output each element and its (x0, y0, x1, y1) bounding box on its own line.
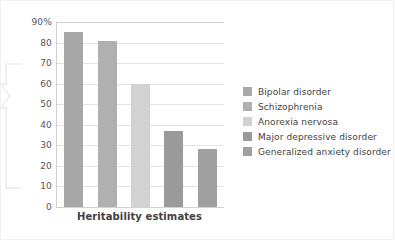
legend-item: Generalized anxiety disorder (243, 144, 393, 159)
x-axis-label: Heritability estimates (56, 211, 223, 222)
plot-area (56, 22, 224, 208)
y-axis-tick-label: 0 (6, 203, 52, 212)
y-axis-tick-labels: 90%80706050403020100 (0, 0, 52, 241)
legend-item-label: Major depressive disorder (258, 132, 377, 142)
y-axis-tick-label: 30 (6, 141, 52, 150)
legend-item: Bipolar disorder (243, 84, 393, 99)
legend-item-label: Generalized anxiety disorder (258, 147, 391, 157)
bar (64, 32, 83, 207)
legend-item: Schizophrenia (243, 99, 393, 114)
bar (164, 131, 183, 207)
legend-item-label: Anorexia nervosa (258, 117, 338, 127)
y-axis-tick-label: 50 (6, 100, 52, 109)
legend-swatch (243, 117, 252, 126)
legend-item: Major depressive disorder (243, 129, 393, 144)
y-axis-tick-label: 70 (6, 59, 52, 68)
y-axis-tick-label: 80 (6, 39, 52, 48)
legend: Bipolar disorderSchizophreniaAnorexia ne… (243, 84, 393, 159)
legend-item-label: Schizophrenia (258, 102, 323, 112)
legend-item-label: Bipolar disorder (258, 87, 331, 97)
bar (131, 84, 150, 207)
bar-series (57, 22, 224, 207)
y-axis-tick-label: 40 (6, 121, 52, 130)
legend-item: Anorexia nervosa (243, 114, 393, 129)
bar (198, 149, 217, 207)
y-axis-tick-label: 60 (6, 80, 52, 89)
legend-swatch (243, 147, 252, 156)
legend-swatch (243, 132, 252, 141)
y-axis-tick-label: 90% (6, 18, 52, 27)
legend-swatch (243, 87, 252, 96)
bar-chart: 90%80706050403020100 Heritability estima… (0, 0, 395, 241)
bar (98, 41, 117, 208)
y-axis-tick-label: 20 (6, 162, 52, 171)
legend-swatch (243, 102, 252, 111)
y-axis-tick-label: 10 (6, 182, 52, 191)
